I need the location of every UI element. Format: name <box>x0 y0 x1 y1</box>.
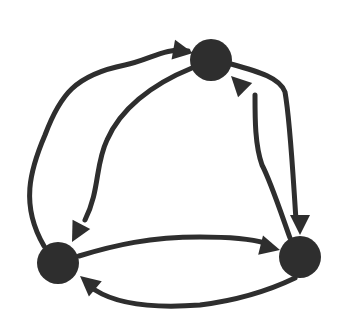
edge-left-to-right-upper <box>79 237 265 256</box>
directed-graph-diagram <box>0 0 346 329</box>
arrowhead-icon <box>231 76 252 97</box>
node-top <box>190 39 232 81</box>
arrowhead-icon <box>290 215 310 235</box>
edge-right-to-left-lower <box>95 278 295 306</box>
arrowhead-icon <box>72 220 90 242</box>
node-left <box>37 242 79 284</box>
edge-top-to-left-inner <box>85 68 192 220</box>
arrowhead-icon <box>258 235 280 254</box>
edge-right-to-top-inner <box>255 95 290 238</box>
node-right <box>279 236 321 278</box>
